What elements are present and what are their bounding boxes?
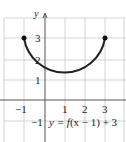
y-tick-3: 3 (35, 33, 41, 44)
endpoint-right (103, 36, 108, 41)
x-tick-2: 2 (82, 104, 88, 115)
y-tick-1: 1 (35, 75, 41, 86)
equation-prefix: y = (49, 116, 67, 128)
y-tick-minus1: −1 (31, 117, 43, 128)
x-tick-3: 3 (102, 104, 108, 115)
y-axis-label: y (34, 9, 38, 19)
x-tick-minus1: −1 (15, 104, 27, 115)
equation-rest: (x − 1) + 3 (70, 116, 117, 128)
y-tick-2: 2 (35, 55, 41, 66)
equation-label: y = f(x − 1) + 3 (49, 117, 117, 128)
endpoint-left (22, 36, 27, 41)
x-tick-1: 1 (62, 104, 68, 115)
